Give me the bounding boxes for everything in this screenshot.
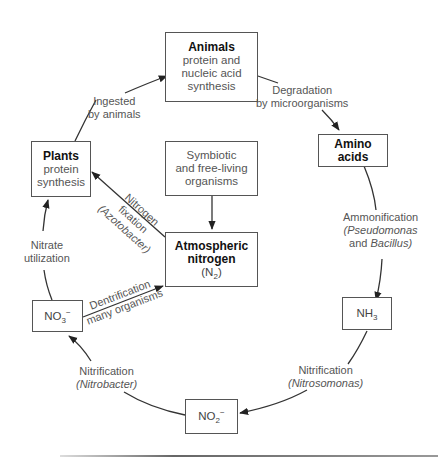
label-degradation: Degradation by microorganisms [256,84,348,110]
node-animals-line: protein and [183,54,241,67]
arrow-amino-to-nh3 [364,166,376,210]
node-atmospheric-title-2: nitrogen [188,253,236,266]
label-nitrification-nitrobacter: Nitrification (Nitrobacter) [76,365,137,391]
node-no2: NO2− [185,399,238,434]
node-atmospheric-formula: (N2) [201,266,221,279]
node-no3: NO3− [32,300,83,332]
node-symbiotic-line: and free-living [175,162,247,175]
node-symbiotic-organisms: Symbiotic and free-living organisms [165,141,258,196]
arrow-nh3-to-no2 [348,331,367,364]
node-animals-line: synthesis [188,80,236,93]
node-amino-acids-title: Amino acids [319,138,387,164]
node-nh3: NH3 [342,297,392,330]
node-no2-formula: NO2− [198,410,224,423]
node-plants-line: protein [43,163,78,176]
arrow-no3-to-plants [44,270,52,300]
node-plants-line: synthesis [37,176,85,189]
node-animals: Animals protein and nucleic acid synthes… [165,32,258,102]
label-ingested: Ingested by animals [88,95,141,121]
node-atmospheric-nitrogen: Atmospheric nitrogen (N2) [165,232,258,287]
node-no3-formula: NO3− [44,310,70,323]
node-plants: Plants protein synthesis [31,141,91,197]
page-divider [60,455,438,457]
label-ammonification: Ammonification (Pseudomonas and Bacillus… [343,211,418,250]
node-symbiotic-line: Symbiotic [187,149,237,162]
node-amino-acids: Amino acids [318,134,388,167]
arrow-no2-to-no3 [124,392,185,415]
label-nitrification-nitrosomonas: Nitrification (Nitrosomonas) [288,364,363,390]
node-plants-title: Plants [43,150,79,163]
node-nh3-formula: NH3 [356,307,377,320]
node-animals-title: Animals [188,41,235,54]
node-symbiotic-line: organisms [185,175,238,188]
label-nitrate-utilization: Nitrate utilization [24,239,70,265]
arrow-animals-to-amino-acids [255,75,278,83]
node-animals-line: nucleic acid [181,67,241,80]
